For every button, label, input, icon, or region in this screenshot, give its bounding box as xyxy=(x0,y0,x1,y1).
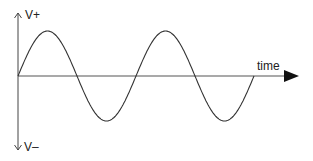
voltage-axis xyxy=(15,13,22,150)
diagram-canvas xyxy=(0,0,313,161)
v-plus-label: V+ xyxy=(25,9,40,21)
sine-wave-diagram: V+ V– time xyxy=(0,0,313,161)
time-label: time xyxy=(257,60,280,72)
v-minus-label: V– xyxy=(24,141,39,153)
right-arrow-icon xyxy=(284,70,299,82)
